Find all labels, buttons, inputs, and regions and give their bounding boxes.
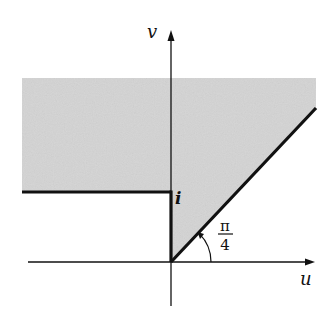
diagram-figure: v u i π 4 — [0, 0, 332, 316]
angle-denominator: 4 — [220, 236, 230, 254]
point-i-label: i — [175, 188, 181, 208]
angle-arc — [199, 234, 211, 262]
u-axis-label: u — [300, 268, 312, 289]
shaded-region — [22, 78, 316, 262]
angle-numerator: π — [220, 217, 230, 235]
v-axis-label: v — [147, 21, 157, 42]
angle-label: π 4 — [218, 217, 233, 254]
